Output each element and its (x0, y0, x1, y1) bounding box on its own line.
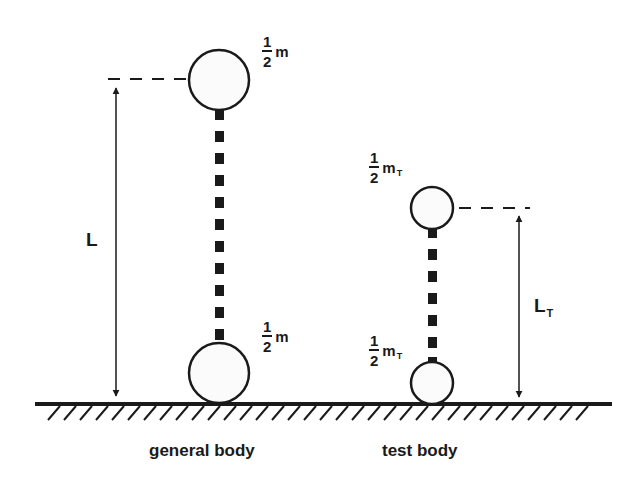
fraction-bar (262, 50, 272, 52)
length-symbol: L (86, 229, 98, 250)
test-body-length-label: LT (534, 295, 553, 317)
fraction-denominator: 2 (263, 339, 271, 354)
test-body-top-mass-label: 1 2 m T (369, 150, 402, 185)
fraction-numerator: 1 (262, 319, 272, 334)
fraction-numerator: 1 (369, 150, 379, 165)
fraction-denominator: 2 (263, 54, 271, 69)
general-body-length-label: L (86, 229, 98, 251)
test-body-top-sphere (411, 187, 453, 229)
mass-subscript: T (397, 168, 403, 178)
general-body-bottom-sphere (189, 343, 249, 403)
test-body-bottom-sphere (411, 362, 453, 404)
test-body-caption: test body (382, 441, 458, 461)
length-subscript: T (547, 307, 554, 319)
general-body-top-mass-label: 1 2 m (262, 34, 289, 69)
fraction-bar (369, 349, 379, 351)
mass-symbol: m (382, 342, 395, 359)
fraction-bar (369, 166, 379, 168)
fraction-numerator: 1 (262, 34, 272, 49)
fraction-denominator: 2 (370, 353, 378, 368)
ground (35, 404, 612, 420)
general-body-rod (215, 109, 224, 340)
test-body-bottom-mass-label: 1 2 m T (369, 333, 402, 368)
mass-symbol: m (275, 328, 288, 345)
mass-subscript: T (397, 351, 403, 361)
test-body (411, 187, 530, 404)
fraction-denominator: 2 (370, 170, 378, 185)
mass-symbol: m (275, 43, 288, 60)
fraction-numerator: 1 (369, 333, 379, 348)
general-body-bottom-mass-label: 1 2 m (262, 319, 289, 354)
mass-symbol: m (382, 159, 395, 176)
general-body-top-sphere (189, 50, 249, 110)
ground-hatching (48, 406, 588, 420)
test-body-rod (428, 227, 437, 365)
general-body (108, 50, 249, 403)
length-symbol: L (534, 295, 546, 316)
general-body-caption: general body (149, 441, 255, 461)
fraction-bar (262, 335, 272, 337)
